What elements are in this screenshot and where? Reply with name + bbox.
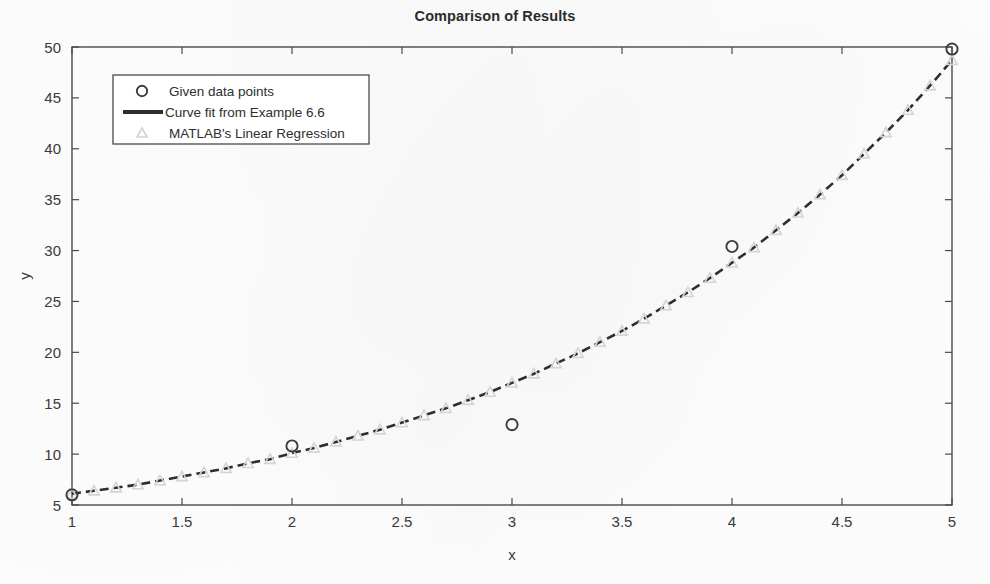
x-tick-label: 1.5 <box>172 513 193 530</box>
y-axis-label: y <box>16 272 33 280</box>
y-tick-label: 30 <box>44 242 61 259</box>
x-axis-label: x <box>508 546 516 563</box>
data-point-marker <box>286 440 297 451</box>
y-tick-label: 40 <box>44 140 61 157</box>
regression-marker <box>573 348 583 357</box>
x-tick-label: 2 <box>288 513 296 530</box>
legend-box: Given data pointsCurve fit from Example … <box>113 75 369 144</box>
x-tick-label: 1 <box>68 513 76 530</box>
legend-entry-label: Curve fit from Example 6.6 <box>165 105 325 120</box>
y-tick-label: 35 <box>44 191 61 208</box>
data-point-marker <box>726 241 737 252</box>
x-tick-label: 5 <box>948 513 956 530</box>
plot-canvas: 11.522.533.544.55 5101520253035404550 xy… <box>0 0 990 584</box>
x-tick-labels: 11.522.533.544.55 <box>68 513 956 530</box>
y-tick-label: 45 <box>44 89 61 106</box>
regression-marker <box>661 300 671 309</box>
x-tick-label: 3 <box>508 513 516 530</box>
matlab-figure-window: Comparison of Results 11.522.533.544.55 … <box>0 0 990 584</box>
y-tick-label: 25 <box>44 293 61 310</box>
legend-entry-label: Given data points <box>169 84 274 99</box>
y-tick-labels: 5101520253035404550 <box>44 39 61 514</box>
x-tick-label: 3.5 <box>612 513 633 530</box>
y-tick-label: 15 <box>44 395 61 412</box>
x-tick-label: 2.5 <box>392 513 413 530</box>
y-tick-label: 10 <box>44 446 61 463</box>
legend-entry-label: MATLAB's Linear Regression <box>169 126 345 141</box>
y-tick-label: 5 <box>53 497 61 514</box>
y-tick-label: 20 <box>44 344 61 361</box>
data-point-marker <box>506 419 517 430</box>
x-tick-label: 4.5 <box>832 513 853 530</box>
axis-titles: xy <box>16 272 516 563</box>
y-tick-label: 50 <box>44 39 61 56</box>
x-tick-label: 4 <box>728 513 736 530</box>
